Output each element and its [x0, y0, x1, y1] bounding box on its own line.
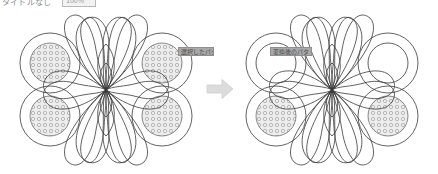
transformation-arrow: [206, 78, 234, 100]
before-pattern-callout-label: 選択したパターン: [179, 48, 213, 56]
after-pattern-callout[interactable]: 変換後のパターン: [270, 47, 312, 56]
arrow-shape: [207, 80, 233, 99]
screenshot-canvas: タイトルなし 100%: [0, 0, 438, 174]
toolbar-title-label: タイトルなし: [2, 0, 51, 7]
toolbar-zoom-field[interactable]: 100%: [62, 0, 96, 7]
after-pattern-callout-label: 変換後のパターン: [271, 48, 311, 56]
before-pattern-panel: [6, 8, 206, 174]
before-pattern-callout[interactable]: 選択したパターン: [178, 47, 214, 56]
after-pattern-panel: [232, 8, 432, 174]
toolbar-zoom-value: 100%: [66, 0, 84, 4]
